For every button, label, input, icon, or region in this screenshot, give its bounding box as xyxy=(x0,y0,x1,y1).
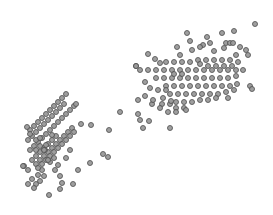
data-point xyxy=(214,96,219,101)
data-point xyxy=(238,45,243,50)
data-point xyxy=(250,87,255,92)
data-point xyxy=(143,94,148,99)
data-point xyxy=(178,53,183,58)
data-point xyxy=(42,122,47,127)
data-point xyxy=(34,130,39,135)
data-point xyxy=(28,132,33,137)
data-point xyxy=(44,132,49,137)
data-point xyxy=(74,102,79,107)
data-point xyxy=(134,64,139,69)
data-point xyxy=(208,41,213,46)
data-point xyxy=(192,92,197,97)
data-point xyxy=(210,68,215,73)
data-point xyxy=(188,84,193,89)
data-point xyxy=(166,110,171,115)
data-point xyxy=(76,168,81,173)
data-point xyxy=(36,166,41,171)
data-point xyxy=(184,108,189,113)
data-point xyxy=(56,120,61,125)
data-point xyxy=(56,100,61,105)
data-point xyxy=(226,68,231,73)
data-point xyxy=(198,62,203,67)
data-point xyxy=(214,64,219,69)
data-point xyxy=(50,133,55,138)
data-point xyxy=(147,119,152,124)
data-point xyxy=(153,57,158,62)
data-point xyxy=(190,100,195,105)
data-point xyxy=(234,68,239,73)
data-point xyxy=(38,144,43,149)
data-point xyxy=(198,98,203,103)
data-point xyxy=(158,61,163,66)
data-point xyxy=(52,156,57,161)
data-point xyxy=(218,76,223,81)
data-point xyxy=(200,92,205,97)
data-point xyxy=(156,88,161,93)
data-point xyxy=(52,104,57,109)
data-point xyxy=(64,92,69,97)
scatter-plot xyxy=(0,0,273,215)
data-point xyxy=(56,146,61,151)
data-point xyxy=(180,72,185,77)
data-point xyxy=(46,118,51,123)
data-point xyxy=(50,138,55,143)
data-point xyxy=(36,173,41,178)
data-point xyxy=(234,74,239,79)
data-point xyxy=(174,110,179,115)
data-point xyxy=(32,186,37,191)
data-point xyxy=(68,108,73,113)
data-point xyxy=(194,76,199,81)
data-point xyxy=(54,110,59,115)
data-point xyxy=(68,148,73,153)
data-point xyxy=(186,68,191,73)
data-point xyxy=(175,45,180,50)
data-point xyxy=(168,126,173,131)
data-point xyxy=(62,102,67,107)
data-point xyxy=(231,41,236,46)
data-point xyxy=(26,182,31,187)
data-point xyxy=(232,29,237,34)
data-point xyxy=(79,122,84,127)
data-point xyxy=(52,150,57,155)
data-point xyxy=(30,177,35,182)
data-point xyxy=(48,108,53,113)
data-point xyxy=(180,84,185,89)
data-point xyxy=(38,179,43,184)
data-point xyxy=(46,158,51,163)
data-point xyxy=(220,31,225,36)
data-point xyxy=(162,76,167,81)
data-point xyxy=(36,120,41,125)
data-point xyxy=(89,123,94,128)
data-point xyxy=(206,98,211,103)
data-point xyxy=(184,92,189,97)
data-point xyxy=(220,58,225,63)
data-point xyxy=(208,92,213,97)
data-point xyxy=(206,64,211,69)
data-point xyxy=(38,136,43,141)
data-point xyxy=(146,68,151,73)
data-point xyxy=(50,114,55,119)
data-point xyxy=(246,53,251,58)
data-point xyxy=(28,148,33,153)
data-point xyxy=(44,112,49,117)
data-point xyxy=(172,84,177,89)
data-point xyxy=(58,106,63,111)
data-point xyxy=(151,98,156,103)
data-point xyxy=(204,84,209,89)
data-point xyxy=(222,64,227,69)
data-point xyxy=(64,112,69,117)
data-point xyxy=(226,96,231,101)
data-point xyxy=(34,154,39,159)
data-point xyxy=(21,164,26,169)
data-point xyxy=(60,181,65,186)
data-point xyxy=(194,68,199,73)
data-point xyxy=(168,92,173,97)
data-point xyxy=(58,174,63,179)
data-point xyxy=(40,162,45,167)
data-point xyxy=(169,99,174,104)
data-point xyxy=(141,126,146,131)
data-point xyxy=(180,60,185,65)
data-point xyxy=(154,76,159,81)
data-point xyxy=(202,68,207,73)
data-point xyxy=(71,182,76,187)
